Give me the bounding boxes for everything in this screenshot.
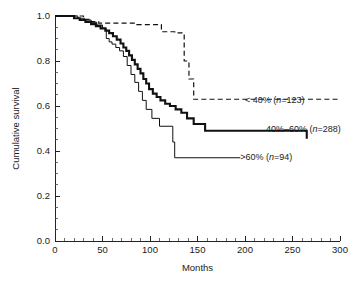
survival-curve-2 <box>55 16 307 139</box>
kaplan-meier-figure: 050100150200250300 0.00.20.40.60.81.0 < … <box>0 0 361 284</box>
y-tick-label: 0.8 <box>37 55 50 66</box>
survival-curve-1 <box>55 16 340 99</box>
survival-plot-svg: 050100150200250300 0.00.20.40.60.81.0 < … <box>0 0 361 284</box>
y-axis-tick-labels: 0.00.20.40.60.81.0 <box>37 10 50 246</box>
series-label-3: >60% (n=94) <box>240 152 292 162</box>
x-tick-label: 300 <box>332 244 348 255</box>
x-axis-major-ticks <box>55 236 340 241</box>
series-label-1: < 40% (n=123) <box>245 95 305 105</box>
y-tick-label: 0.6 <box>37 100 50 111</box>
x-tick-label: 0 <box>52 244 57 255</box>
x-tick-label: 50 <box>97 244 108 255</box>
y-tick-label: 1.0 <box>37 10 50 21</box>
series-labels: < 40% (n=123)40%–60% (n=288)>60% (n=94) <box>240 95 340 162</box>
x-axis-title: Months <box>182 262 213 273</box>
y-tick-label: 0.0 <box>37 235 50 246</box>
y-tick-label: 0.2 <box>37 190 50 201</box>
x-tick-label: 150 <box>190 244 206 255</box>
survival-curves <box>55 16 340 158</box>
x-tick-label: 250 <box>285 244 301 255</box>
survival-curve-3 <box>55 16 240 158</box>
y-axis-title: Cumulative survival <box>10 87 21 169</box>
x-axis-tick-labels: 050100150200250300 <box>52 244 348 255</box>
x-tick-label: 100 <box>142 244 158 255</box>
y-tick-label: 0.4 <box>37 145 50 156</box>
series-label-2: 40%–60% (n=288) <box>266 124 341 134</box>
x-tick-label: 200 <box>237 244 253 255</box>
